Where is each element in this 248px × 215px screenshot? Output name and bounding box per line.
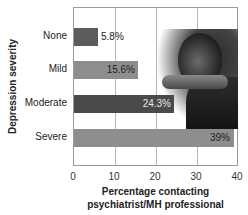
category-label-none: None [43,27,67,45]
category-label-mild: Mild [49,60,67,78]
y-axis-label: Depression severity [7,37,18,137]
x-tick-40: 40 [227,171,247,182]
value-label-severe: 39% [74,129,230,147]
x-tick-10: 10 [104,171,124,182]
x-axis-label-line1: Percentage contacting [73,186,238,198]
value-label-mild: 15.6% [74,61,135,79]
plot-area: 5.8% 15.6% 24.3% 39% [73,7,238,166]
value-label-none: 5.8% [101,28,124,46]
x-tick-0: 0 [63,171,83,182]
category-label-moderate: Moderate [25,94,67,112]
x-tick-30: 30 [186,171,206,182]
x-tick-20: 20 [145,171,165,182]
category-label-severe: Severe [35,128,67,146]
x-axis-label-line2: psychiatrist/MH professional [73,199,238,211]
value-label-moderate: 24.3% [74,95,171,113]
photo-arm-shape [162,75,228,89]
bar-none [74,28,98,46]
depressed-woman-photo [156,29,238,129]
